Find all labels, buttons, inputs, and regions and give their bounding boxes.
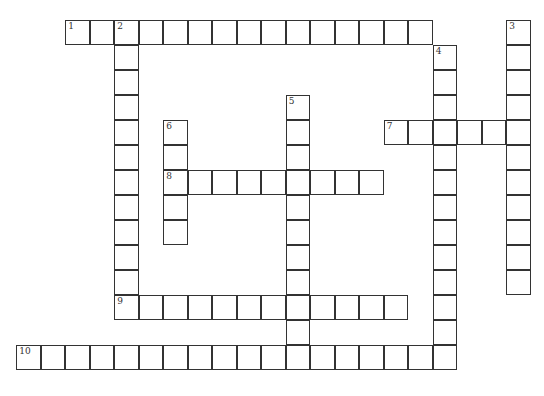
crossword-cell[interactable] xyxy=(163,345,188,370)
crossword-cell[interactable] xyxy=(286,320,311,345)
crossword-cell[interactable] xyxy=(188,20,213,45)
crossword-cell[interactable] xyxy=(359,295,384,320)
crossword-cell[interactable] xyxy=(188,170,213,195)
crossword-cell[interactable] xyxy=(114,120,139,145)
crossword-cell[interactable] xyxy=(286,20,311,45)
crossword-cell[interactable] xyxy=(457,120,482,145)
crossword-cell[interactable] xyxy=(212,345,237,370)
crossword-cell[interactable] xyxy=(433,145,458,170)
crossword-cell[interactable] xyxy=(65,345,90,370)
crossword-cell[interactable] xyxy=(359,170,384,195)
crossword-cell[interactable] xyxy=(408,120,433,145)
crossword-cell[interactable]: 1 xyxy=(65,20,90,45)
crossword-cell[interactable] xyxy=(163,145,188,170)
crossword-cell[interactable] xyxy=(506,270,531,295)
crossword-cell[interactable]: 8 xyxy=(163,170,188,195)
crossword-cell[interactable] xyxy=(506,95,531,120)
crossword-cell[interactable] xyxy=(310,20,335,45)
crossword-cell[interactable] xyxy=(286,245,311,270)
crossword-cell[interactable]: 2 xyxy=(114,20,139,45)
crossword-cell[interactable] xyxy=(163,20,188,45)
crossword-cell[interactable]: 3 xyxy=(506,20,531,45)
crossword-cell[interactable] xyxy=(212,170,237,195)
crossword-cell[interactable] xyxy=(237,295,262,320)
crossword-cell[interactable] xyxy=(286,170,311,195)
crossword-cell[interactable] xyxy=(286,220,311,245)
crossword-cell[interactable] xyxy=(335,345,360,370)
crossword-cell[interactable] xyxy=(237,20,262,45)
crossword-cell[interactable] xyxy=(261,295,286,320)
crossword-cell[interactable] xyxy=(114,220,139,245)
crossword-cell[interactable] xyxy=(384,295,409,320)
crossword-cell[interactable] xyxy=(506,170,531,195)
crossword-cell[interactable] xyxy=(286,145,311,170)
crossword-cell[interactable] xyxy=(286,270,311,295)
crossword-cell[interactable] xyxy=(433,345,458,370)
crossword-cell[interactable] xyxy=(310,170,335,195)
crossword-cell[interactable] xyxy=(90,345,115,370)
crossword-cell[interactable] xyxy=(286,195,311,220)
crossword-cell[interactable] xyxy=(506,195,531,220)
crossword-cell[interactable] xyxy=(433,170,458,195)
crossword-cell[interactable] xyxy=(433,70,458,95)
crossword-cell[interactable] xyxy=(506,70,531,95)
crossword-cell[interactable]: 7 xyxy=(384,120,409,145)
crossword-cell[interactable] xyxy=(90,20,115,45)
crossword-cell[interactable] xyxy=(114,195,139,220)
crossword-cell[interactable] xyxy=(261,170,286,195)
crossword-cell[interactable] xyxy=(286,120,311,145)
crossword-cell[interactable] xyxy=(506,120,531,145)
crossword-cell[interactable] xyxy=(212,295,237,320)
crossword-cell[interactable] xyxy=(408,20,433,45)
crossword-cell[interactable] xyxy=(433,320,458,345)
crossword-cell[interactable] xyxy=(139,20,164,45)
crossword-cell[interactable] xyxy=(114,45,139,70)
crossword-cell[interactable]: 6 xyxy=(163,120,188,145)
crossword-cell[interactable] xyxy=(261,345,286,370)
crossword-cell[interactable] xyxy=(433,270,458,295)
crossword-cell[interactable] xyxy=(212,20,237,45)
crossword-cell[interactable] xyxy=(506,145,531,170)
crossword-cell[interactable] xyxy=(433,195,458,220)
crossword-cell[interactable]: 5 xyxy=(286,95,311,120)
crossword-cell[interactable]: 10 xyxy=(16,345,41,370)
crossword-cell[interactable] xyxy=(384,20,409,45)
crossword-cell[interactable] xyxy=(139,295,164,320)
crossword-cell[interactable] xyxy=(41,345,66,370)
crossword-cell[interactable] xyxy=(408,345,433,370)
crossword-cell[interactable] xyxy=(359,345,384,370)
crossword-cell[interactable] xyxy=(433,245,458,270)
crossword-cell[interactable] xyxy=(114,270,139,295)
crossword-cell[interactable] xyxy=(114,170,139,195)
crossword-cell[interactable]: 9 xyxy=(114,295,139,320)
crossword-cell[interactable] xyxy=(237,345,262,370)
crossword-cell[interactable] xyxy=(433,220,458,245)
crossword-cell[interactable] xyxy=(163,295,188,320)
crossword-cell[interactable] xyxy=(335,20,360,45)
crossword-cell[interactable] xyxy=(286,345,311,370)
crossword-cell[interactable] xyxy=(114,145,139,170)
crossword-cell[interactable] xyxy=(139,345,164,370)
crossword-cell[interactable] xyxy=(163,195,188,220)
crossword-cell[interactable] xyxy=(335,170,360,195)
crossword-cell[interactable] xyxy=(433,95,458,120)
crossword-cell[interactable] xyxy=(335,295,360,320)
crossword-cell[interactable] xyxy=(482,120,507,145)
crossword-cell[interactable] xyxy=(286,295,311,320)
crossword-cell[interactable] xyxy=(310,295,335,320)
crossword-cell[interactable] xyxy=(114,245,139,270)
crossword-cell[interactable] xyxy=(114,95,139,120)
crossword-cell[interactable] xyxy=(188,295,213,320)
crossword-cell[interactable] xyxy=(384,345,409,370)
crossword-cell[interactable] xyxy=(188,345,213,370)
crossword-cell[interactable] xyxy=(506,45,531,70)
crossword-cell[interactable] xyxy=(433,120,458,145)
crossword-cell[interactable] xyxy=(261,20,286,45)
crossword-cell[interactable] xyxy=(506,245,531,270)
crossword-cell[interactable] xyxy=(163,220,188,245)
crossword-cell[interactable]: 4 xyxy=(433,45,458,70)
crossword-cell[interactable] xyxy=(506,220,531,245)
crossword-cell[interactable] xyxy=(114,345,139,370)
crossword-cell[interactable] xyxy=(310,345,335,370)
crossword-cell[interactable] xyxy=(359,20,384,45)
